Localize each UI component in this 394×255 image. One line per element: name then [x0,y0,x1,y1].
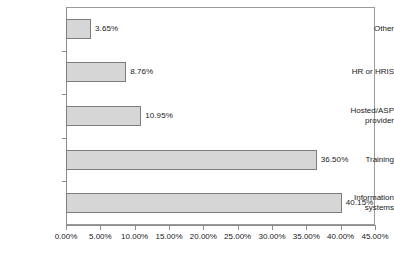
bar [66,62,126,82]
y-axis-tick [62,181,66,182]
x-axis-tick-label: 35.00% [293,233,320,241]
y-axis-tick [62,51,66,52]
bar-value-label: 8.76% [130,68,153,76]
bar [66,19,91,39]
x-axis-tick-label: 40.00% [327,233,354,241]
bar [66,106,141,126]
bar-value-label: 10.95% [145,112,173,120]
bar [66,150,317,170]
category-label: Other [332,24,394,34]
x-axis-tick [375,226,376,230]
x-axis-tick-label: 15.00% [155,233,182,241]
category-label: Information systems [332,193,394,213]
x-axis-tick-label: 25.00% [224,233,251,241]
category-label: Hosted/ASP provider [332,106,394,126]
x-axis-tick-label: 20.00% [190,233,217,241]
bar [66,193,342,213]
x-axis-tick [341,226,342,230]
category-label: Training [332,155,394,165]
y-axis-tick [62,94,66,95]
x-axis-tick-label: 30.00% [258,233,285,241]
x-axis-tick-label: 45.00% [361,233,388,241]
x-axis-tick [203,226,204,230]
x-axis-tick-label: 10.00% [121,233,148,241]
x-axis-tick [306,226,307,230]
x-axis-tick [66,226,67,230]
x-axis-tick [238,226,239,230]
bar-value-label: 3.65% [95,25,118,33]
x-axis-tick [272,226,273,230]
bar-chart: 3.65%8.76%10.95%36.50%40.15% OtherHR or … [0,0,394,255]
y-axis-tick [62,138,66,139]
x-axis-tick-label: 5.00% [89,233,112,241]
x-axis-tick [100,226,101,230]
x-axis-line [66,225,376,226]
x-axis-tick [169,226,170,230]
x-axis-tick-label: 0.00% [55,233,78,241]
x-axis-tick [135,226,136,230]
category-label: HR or HRIS [332,67,394,77]
